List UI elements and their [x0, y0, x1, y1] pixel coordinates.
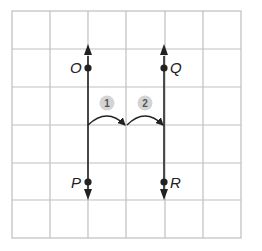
point-p-dot [84, 178, 91, 185]
line-qr: Q R [160, 44, 182, 200]
step-1-arc [88, 116, 125, 125]
step-1-label: 1 [104, 98, 110, 109]
step-2-arc [127, 116, 163, 125]
point-p-label: P [71, 174, 81, 191]
translation-diagram: O P Q R 1 2 [0, 0, 262, 251]
point-o-dot [84, 64, 91, 71]
point-q-label: Q [170, 59, 182, 76]
point-r-label: R [170, 174, 181, 191]
point-o-label: O [70, 59, 82, 76]
line-op: O P [70, 44, 92, 200]
step-2-label: 2 [142, 98, 148, 109]
point-r-dot [160, 178, 167, 185]
arrow-down-icon [160, 189, 168, 200]
arrow-down-icon [84, 189, 92, 200]
point-q-dot [160, 64, 167, 71]
